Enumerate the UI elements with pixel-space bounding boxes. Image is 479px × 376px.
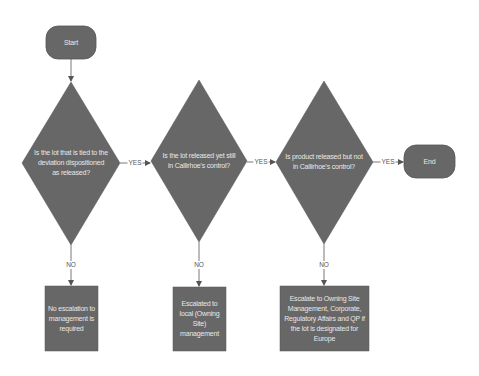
end-terminator [404,145,455,178]
decision2-diamond [151,80,247,242]
edge-label-yes-2: YES [253,158,268,166]
edge-label-no-2: NO [193,261,205,269]
edge-label-no-1: NO [65,261,77,269]
edge-label-no-3: NO [318,261,330,269]
edge-label-yes-3: YES [380,158,395,166]
flowchart-canvas [0,0,479,376]
decision1-diamond [22,82,120,245]
decision3-diamond [276,81,373,244]
outcome1-box [45,286,98,351]
edge-label-yes-1: YES [127,159,142,167]
start-terminator [46,26,96,59]
outcome3-box [280,286,369,351]
outcome2-box [173,287,226,351]
